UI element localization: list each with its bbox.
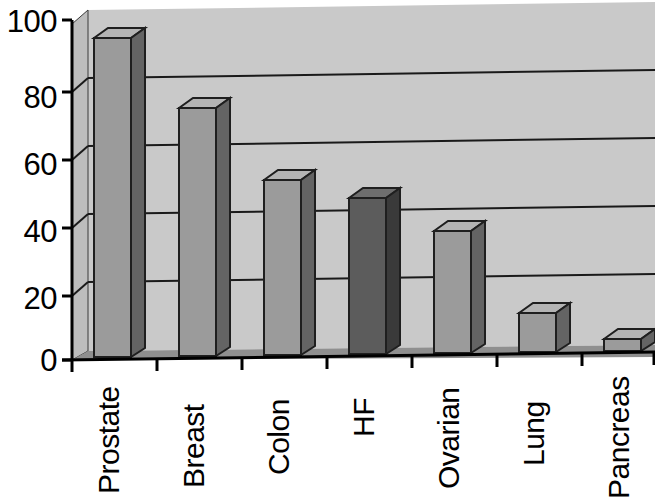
bar-hf-side [386, 188, 400, 354]
x-tick-label-pancreas: Pancreas [604, 376, 634, 499]
bar-breast-side [216, 98, 230, 356]
bar-breast-front [179, 108, 216, 356]
bar-colon[interactable] [264, 170, 315, 355]
bar-ovarian[interactable] [434, 221, 485, 353]
bar-colon-front [264, 180, 301, 355]
bar-ovarian-front [434, 231, 471, 353]
x-tick-label-hf: HF [349, 398, 379, 437]
bar-lung-side [556, 303, 570, 352]
bar-prostate-side [131, 28, 145, 357]
x-tick-label-prostate: Prostate [94, 386, 124, 494]
bar-prostate-front [94, 38, 131, 357]
x-tick-label-ovarian: Ovarian [434, 387, 464, 489]
bar-pancreas-front [604, 339, 641, 351]
bar-colon-side [301, 170, 315, 355]
plot-left-wall [72, 10, 88, 360]
bar-prostate[interactable] [94, 28, 145, 357]
bar-breast[interactable] [179, 98, 230, 356]
x-tick-label-lung: Lung [519, 401, 549, 466]
bar-chart: 100 80 60 40 20 0 [0, 0, 655, 499]
bar-lung[interactable] [519, 303, 570, 352]
x-tick-label-breast: Breast [179, 404, 209, 488]
x-tick-label-colon: Colon [264, 399, 294, 475]
bar-ovarian-side [471, 221, 485, 353]
bar-hf[interactable] [349, 188, 400, 354]
bar-lung-front [519, 313, 556, 352]
bar-hf-front [349, 198, 386, 354]
